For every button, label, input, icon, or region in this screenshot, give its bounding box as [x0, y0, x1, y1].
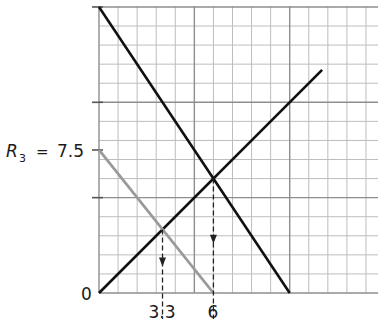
arrow-head-icon: [210, 235, 217, 244]
r3-symbol: R: [6, 141, 18, 161]
series-line: [99, 70, 322, 293]
series: [99, 7, 322, 293]
chart: R 3 = 7.5 0 3.3 6: [0, 0, 378, 326]
origin-label: 0: [81, 284, 92, 304]
dashed-arrows: [159, 179, 217, 319]
r3-equals: =: [36, 143, 49, 161]
r3-value-label: 7.5: [57, 141, 84, 161]
r3-subscript: 3: [19, 152, 26, 165]
x-label-3-3: 3.3: [148, 302, 175, 322]
arrow-head-icon: [159, 258, 166, 267]
y-axis-ticks: [92, 7, 103, 198]
x-label-6: 6: [208, 302, 219, 322]
